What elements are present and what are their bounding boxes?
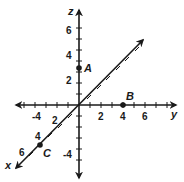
x-tick-label-6: 6 bbox=[19, 147, 25, 158]
x-tick-label-4: 4 bbox=[35, 131, 41, 142]
coordinate-diagram: z y x 6 4 2 -4 -4 2 4 6 2 4 6 A B C bbox=[0, 0, 184, 182]
z-tick-label-6: 6 bbox=[66, 25, 72, 36]
point-b-dot bbox=[120, 102, 126, 108]
point-b-label: B bbox=[126, 90, 134, 102]
z-tick-label-2: 2 bbox=[66, 75, 72, 86]
y-tick-label-4: 4 bbox=[120, 111, 126, 122]
z-tick-label-neg4: -4 bbox=[63, 149, 72, 160]
point-c-label: C bbox=[43, 147, 52, 159]
y-axis bbox=[16, 102, 176, 108]
y-tick-label-neg4: -4 bbox=[32, 111, 41, 122]
point-a-dot bbox=[76, 65, 82, 71]
z-axis-label: z bbox=[67, 5, 74, 17]
z-tick-label-4: 4 bbox=[66, 50, 72, 61]
y-axis-label: y bbox=[170, 108, 178, 120]
point-a-label: A bbox=[83, 62, 92, 74]
y-tick-label-6: 6 bbox=[142, 111, 148, 122]
y-tick-label-2: 2 bbox=[98, 111, 104, 122]
x-axis-label: x bbox=[4, 159, 12, 171]
point-c-dot bbox=[37, 142, 43, 148]
z-axis bbox=[76, 10, 82, 178]
point-c: C bbox=[37, 142, 52, 159]
x-tick-label-2: 2 bbox=[52, 115, 58, 126]
